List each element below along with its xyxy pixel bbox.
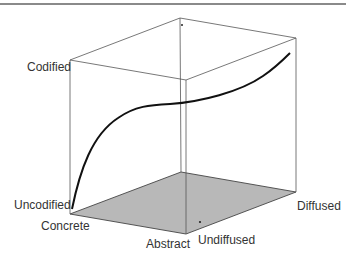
label-undiffused: Undiffused (198, 233, 255, 247)
marker-dot-top (181, 24, 183, 26)
marker-dot-floor (199, 221, 201, 223)
label-diffused: Diffused (297, 199, 341, 213)
label-concrete: Concrete (41, 219, 90, 233)
top-face (70, 18, 296, 80)
floor-plane (70, 172, 296, 234)
label-abstract: Abstract (146, 237, 190, 251)
label-codified: Codified (27, 60, 71, 74)
label-uncodified: Uncodified (14, 198, 71, 212)
edge-back-vertical (180, 18, 181, 172)
